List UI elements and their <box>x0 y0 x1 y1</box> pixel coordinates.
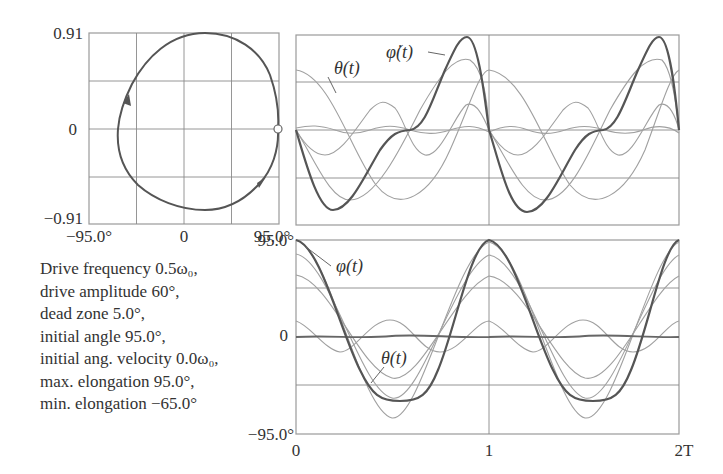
theta-velocity-curve <box>296 70 679 199</box>
arrow-down-icon <box>257 177 266 188</box>
phase-y-bottom-tick: −0.91 <box>44 209 83 228</box>
phase-y-top-tick: 0.91 <box>53 24 83 43</box>
phase-x-mid-tick: 0 <box>180 227 189 246</box>
param-dead-zone: dead zone 5.0°, <box>40 303 219 326</box>
parameter-list: Drive frequency 0.5ω₀, drive amplitude 6… <box>40 258 219 416</box>
phase-trajectory <box>118 33 279 210</box>
param-drive-amplitude: drive amplitude 60°, <box>40 281 219 304</box>
theta-label-bottom: θ(t) <box>381 348 407 369</box>
angle-y-bottom-tick: −95.0° <box>248 425 294 444</box>
phase-y-mid-tick: 0 <box>69 120 78 139</box>
param-initial-angle: initial angle 95.0°, <box>40 326 219 349</box>
angle-y-top-tick: 95.0° <box>257 231 294 250</box>
theta-angle-curve <box>296 335 679 337</box>
angle-y-mid-tick: 0 <box>280 326 289 345</box>
start-marker <box>274 125 282 133</box>
phase-portrait-plot: 0.91 0 −0.91 −95.0° 0 95.0° <box>44 24 291 246</box>
phase-x-left-tick: −95.0° <box>66 227 112 246</box>
phi-label: φ(t) <box>336 256 363 277</box>
velocity-time-plot: θ(t) φ̇(t) <box>296 35 679 225</box>
theta-leader-line <box>328 77 336 93</box>
param-drive-frequency: Drive frequency 0.5ω₀, <box>40 258 219 281</box>
phidot-leader-line <box>428 52 445 55</box>
param-max-elongation: max. elongation 95.0°, <box>40 371 219 394</box>
angle-x-1-tick: 1 <box>485 441 494 460</box>
phidot-label: φ̇(t) <box>386 42 413 63</box>
angle-time-plot: φ(t) θ(t) 95.0° 0 −95.0° 0 1 2T <box>248 231 694 460</box>
angle-x-0-tick: 0 <box>292 441 301 460</box>
theta-label-top: θ(t) <box>334 58 360 79</box>
param-min-elongation: min. elongation −65.0° <box>40 393 219 416</box>
param-initial-velocity: initial ang. velocity 0.0ω₀, <box>40 348 219 371</box>
angle-x-2t-tick: 2T <box>675 441 695 460</box>
